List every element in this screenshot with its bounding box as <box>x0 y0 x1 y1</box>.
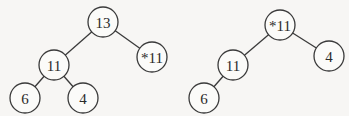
nodes: 13*111164*114116 <box>10 7 344 113</box>
right-tree-node: 4 <box>314 41 344 71</box>
right-tree-node: *11 <box>265 10 295 40</box>
left-tree-node: 13 <box>88 7 118 37</box>
right-tree-node: 11 <box>218 50 248 80</box>
node-label: 11 <box>47 58 61 74</box>
node-label: 6 <box>200 91 208 107</box>
node-label: 4 <box>325 49 333 65</box>
node-label: 6 <box>21 91 29 107</box>
node-label: 11 <box>226 58 240 74</box>
node-label: *11 <box>269 18 291 34</box>
right-tree-node: 6 <box>189 83 219 113</box>
left-tree-node: 6 <box>10 83 40 113</box>
node-label: 4 <box>79 91 87 107</box>
node-label: 13 <box>96 15 111 31</box>
left-tree-node: *11 <box>137 42 167 72</box>
left-tree-node: 11 <box>39 50 69 80</box>
heap-diagram: 13*111164*114116 <box>0 0 349 116</box>
left-tree-node: 4 <box>68 83 98 113</box>
node-label: *11 <box>141 50 163 66</box>
